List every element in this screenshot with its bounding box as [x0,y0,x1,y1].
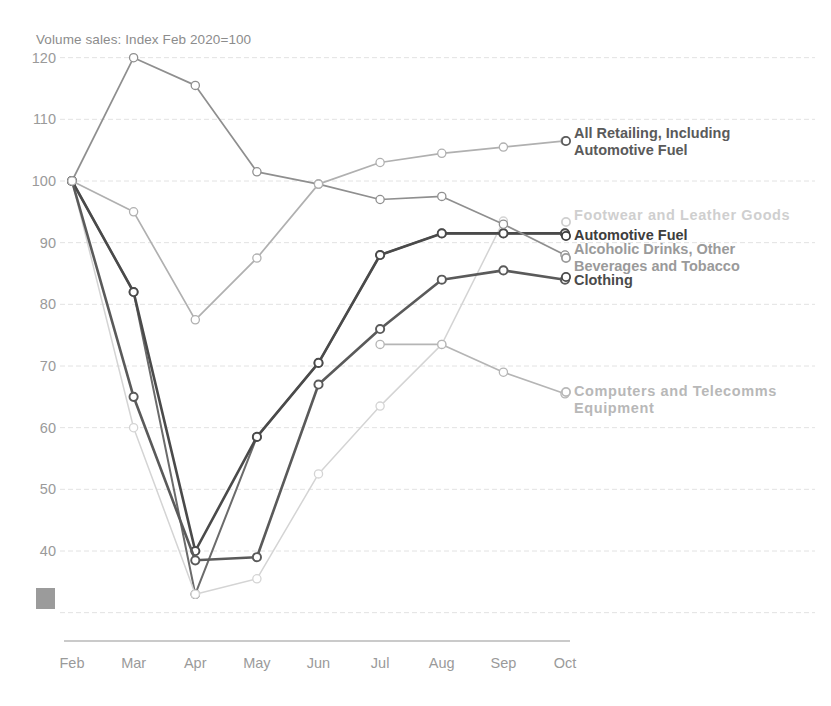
data-point-marker [68,177,76,185]
series-4 [68,177,569,565]
x-axis-tick-label: Aug [429,655,455,671]
x-axis-tick-label: Jul [371,655,390,671]
data-point-marker [253,254,261,262]
data-point-marker [130,54,138,62]
data-point-marker [130,393,138,401]
data-point-marker [130,424,138,432]
legend-marker [562,137,570,145]
x-axis-ticks-group: FebMarAprMayJunJulAugSepOct [60,655,577,671]
data-point-marker [314,380,322,388]
data-point-marker [253,433,261,441]
legend-item-computers-telecomms[interactable]: Computers and TelecommsEquipment [562,383,777,416]
legend-marker [562,254,570,262]
y-axis-tick-label: 120 [32,50,56,66]
data-point-marker [438,192,446,200]
data-point-marker [253,553,261,561]
data-point-marker [376,195,384,203]
legend-item-clothing[interactable]: Clothing [562,272,633,288]
series-line [72,181,565,560]
y-axis-tick-label: 80 [40,296,56,312]
data-point-marker [376,325,384,333]
legend-marker [562,273,570,281]
series-line [72,141,565,320]
legend-label: Clothing [574,272,633,288]
data-point-marker [376,402,384,410]
x-axis-tick-label: Jun [307,655,330,671]
y-axis-tick-label: 70 [40,358,56,374]
chart-container: Volume sales: Index Feb 2020=100 4050607… [0,0,831,706]
data-point-marker [499,220,507,228]
legend-item-all-retailing[interactable]: All Retailing, IncludingAutomotive Fuel [562,125,730,158]
legend-item-alcoholic-drinks[interactable]: Alcoholic Drinks, OtherBeverages and Tob… [562,241,740,274]
series-1 [68,177,508,598]
series-5 [68,137,569,324]
data-point-marker [499,143,507,151]
data-point-marker [499,266,507,274]
series-6 [376,340,569,398]
legend-label: Alcoholic Drinks, Other [574,241,735,257]
data-point-marker [376,158,384,166]
data-point-marker [376,251,384,259]
data-point-marker [191,316,199,324]
series-line [380,344,565,393]
legend-marker [562,218,570,226]
y-axis-tick-label: 60 [40,420,56,436]
legend-label: All Retailing, Including [574,125,730,141]
x-axis-tick-label: Sep [490,655,516,671]
data-point-marker [438,340,446,348]
legend-label: Footwear and Leather Goods [574,207,790,223]
x-axis-tick-label: Oct [554,655,577,671]
data-point-marker [376,340,384,348]
x-axis-tick-label: Apr [184,655,207,671]
y-axis-tick-label: 100 [32,173,56,189]
gridlines-group [60,58,815,613]
y-axis-ticks-group: 405060708090100110120 [32,50,56,559]
data-point-marker [253,575,261,583]
data-point-marker [130,208,138,216]
data-point-marker [314,359,322,367]
data-point-marker [438,276,446,284]
legend-marker [562,232,570,240]
legend-marker [562,388,570,396]
data-point-marker [438,149,446,157]
y-axis-tick-label: 110 [33,111,56,127]
data-point-marker [314,180,322,188]
series-group [68,54,569,599]
data-point-marker [191,81,199,89]
data-point-marker [499,368,507,376]
x-axis-tick-label: Feb [60,655,85,671]
legend-label: Computers and Telecomms [574,383,777,399]
x-axis-tick-label: Mar [121,655,146,671]
legend-group: All Retailing, IncludingAutomotive FuelF… [562,125,790,416]
y-axis-tick-label: 90 [40,235,56,251]
legend-label: Automotive Fuel [574,142,688,158]
x-axis-tick-label: May [243,655,271,671]
data-point-marker [438,229,446,237]
legend-label: Equipment [574,400,654,416]
data-point-marker [191,590,199,598]
data-point-marker [253,168,261,176]
y-axis-tick-label: 50 [40,481,56,497]
series-line [72,58,565,255]
y-axis-tick-label: 40 [40,543,56,559]
data-point-marker [314,470,322,478]
line-chart-plot: 405060708090100110120 FebMarAprMayJunJul… [0,0,831,706]
legend-item-footwear[interactable]: Footwear and Leather Goods [562,207,790,226]
data-point-marker [499,229,507,237]
data-point-marker [191,556,199,564]
data-point-marker [130,288,138,296]
